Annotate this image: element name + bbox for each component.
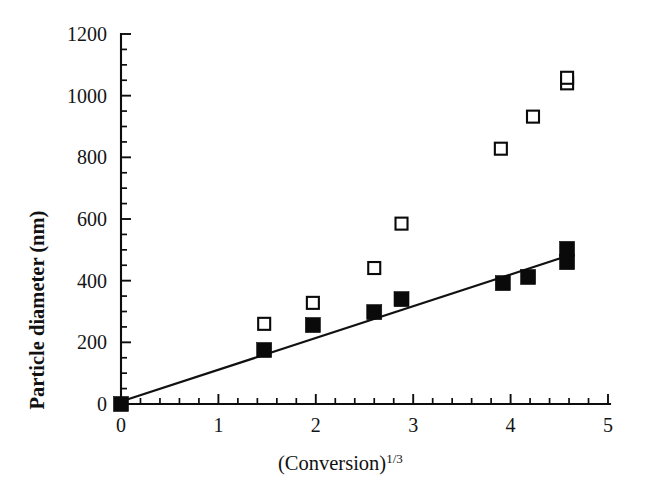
x-axis-ticks xyxy=(121,394,608,404)
y-tick-label: 200 xyxy=(77,331,107,353)
data-point-filled-square xyxy=(495,276,510,291)
x-axis-tick-labels: 012345 xyxy=(116,414,613,436)
data-point-open-square xyxy=(495,143,507,155)
y-tick-label: 400 xyxy=(77,270,107,292)
x-tick-label: 3 xyxy=(408,414,418,436)
x-axis-title: (Conversion)1/3 xyxy=(278,451,403,475)
y-tick-label: 0 xyxy=(97,393,107,415)
y-tick-label: 800 xyxy=(77,146,107,168)
data-point-open-square xyxy=(561,72,573,84)
data-point-filled-square xyxy=(257,343,272,358)
x-tick-label: 0 xyxy=(116,414,126,436)
data-point-filled-square xyxy=(305,318,320,333)
x-tick-label: 1 xyxy=(213,414,223,436)
data-point-open-square xyxy=(258,318,270,330)
data-point-filled-square xyxy=(367,305,382,320)
x-tick-label: 2 xyxy=(311,414,321,436)
data-point-filled-square xyxy=(394,292,409,307)
open-square-series xyxy=(258,72,573,330)
figure-canvas: 020040060080010001200 012345 Particle di… xyxy=(0,0,649,489)
data-point-open-square xyxy=(527,111,539,123)
data-point-filled-square xyxy=(560,241,575,256)
y-tick-label: 1200 xyxy=(67,23,107,45)
x-tick-label: 4 xyxy=(506,414,516,436)
data-point-filled-square xyxy=(114,397,129,412)
scatter-plot: 020040060080010001200 012345 Particle di… xyxy=(0,0,649,489)
x-tick-label: 5 xyxy=(603,414,613,436)
y-axis-tick-labels: 020040060080010001200 xyxy=(67,23,107,415)
y-axis-ticks xyxy=(121,34,131,404)
data-point-open-square xyxy=(368,262,380,274)
axis-lines xyxy=(121,34,610,404)
y-tick-label: 600 xyxy=(77,208,107,230)
y-tick-label: 1000 xyxy=(67,85,107,107)
data-point-open-square xyxy=(396,218,408,230)
data-point-filled-square xyxy=(521,269,536,284)
filled-square-series xyxy=(114,241,575,411)
data-point-filled-square xyxy=(560,255,575,270)
data-point-open-square xyxy=(307,297,319,309)
y-axis-title: Particle diameter (nm) xyxy=(26,211,49,410)
